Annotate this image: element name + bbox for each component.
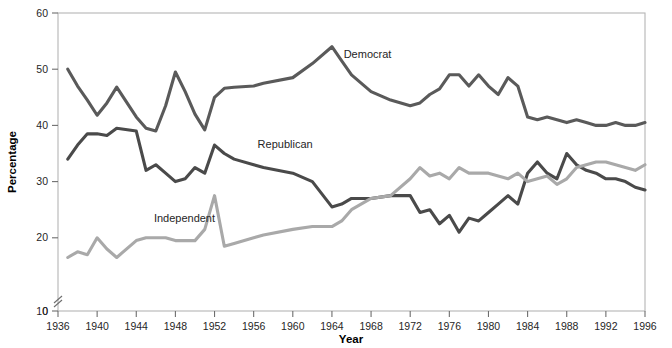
x-tick-label: 1992 [594,320,618,332]
x-tick-label: 1980 [477,320,501,332]
y-tick-label: 40 [36,119,48,131]
x-axis-title: Year [339,333,364,345]
x-tick-label: 1988 [555,320,579,332]
x-tick-label: 1964 [320,320,344,332]
x-tick-label: 1972 [399,320,423,332]
x-tick-label: 1936 [46,320,70,332]
series-label-democrat: Democrat [344,48,392,60]
x-tick-label: 1948 [164,320,188,332]
y-axis-title: Percentage [6,131,18,193]
series-label-independent: Independent [154,212,215,224]
y-axis-ticks: 0102030405060 [36,7,58,317]
x-tick-label: 1952 [203,320,227,332]
series-label-republican: Republican [258,138,313,150]
x-tick-label: 1960 [281,320,305,332]
x-tick-label: 1984 [516,320,540,332]
y-tick-label: 10 [36,305,48,317]
chart-container: 0102030405060 19361940194419481952195619… [0,0,672,348]
x-tick-label: 1944 [125,320,149,332]
x-tick-label: 1976 [438,320,462,332]
y-tick-label: 20 [36,231,48,243]
y-tick-label: 30 [36,175,48,187]
y-tick-label: 60 [36,7,48,19]
data-series-group [68,47,645,258]
x-tick-label: 1956 [242,320,266,332]
y-tick-label: 50 [36,63,48,75]
x-tick-label: 1996 [633,320,657,332]
x-tick-label: 1968 [359,320,383,332]
x-axis-ticks: 1936194019441948195219561960196419681972… [46,311,657,332]
line-chart: 0102030405060 19361940194419481952195619… [0,0,672,348]
x-tick-label: 1940 [85,320,109,332]
